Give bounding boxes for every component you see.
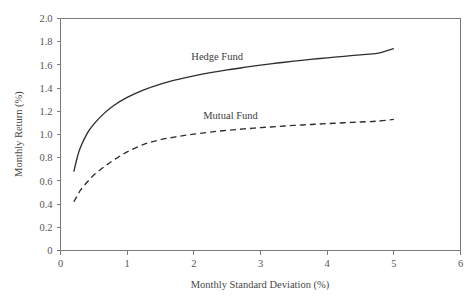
y-tick-label: 0.2 <box>39 222 52 233</box>
y-tick-label: 1.4 <box>39 83 53 94</box>
risk-return-line-chart: 0123456 00.20.40.60.81.01.21.41.61.82.0 … <box>0 0 473 299</box>
chart-page: 0123456 00.20.40.60.81.01.21.41.61.82.0 … <box>0 0 473 299</box>
y-tick-label: 1.6 <box>39 60 52 71</box>
y-tick-label: 1.0 <box>39 129 52 140</box>
series-annotation-hedge-fund: Hedge Fund <box>191 51 243 62</box>
x-tick-label: 0 <box>58 258 63 269</box>
y-tick-label: 0.6 <box>39 176 52 187</box>
y-axis-label: Monthly Return (%) <box>13 91 25 177</box>
x-tick-label: 5 <box>391 258 396 269</box>
series-annotation-mutual-fund: Mutual Fund <box>203 110 258 121</box>
y-tick-label: 0.4 <box>39 199 53 210</box>
x-tick-label: 3 <box>258 258 263 269</box>
x-tick-label: 1 <box>125 258 130 269</box>
x-tick-label: 6 <box>458 258 463 269</box>
y-tick-label: 0 <box>47 245 52 256</box>
x-tick-label: 4 <box>325 258 331 269</box>
y-tick-label: 0.8 <box>39 152 52 163</box>
y-tick-label: 1.8 <box>39 36 52 47</box>
y-tick-label: 2.0 <box>39 13 52 24</box>
y-tick-label: 1.2 <box>39 106 52 117</box>
x-tick-label: 2 <box>191 258 196 269</box>
chart-background <box>0 0 473 299</box>
x-axis-label: Monthly Standard Deviation (%) <box>191 279 330 291</box>
